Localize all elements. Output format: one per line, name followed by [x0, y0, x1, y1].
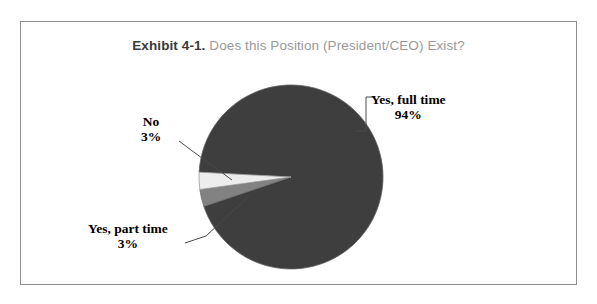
label-yes-full-time-percent: 94%	[371, 107, 446, 122]
label-no-percent: 3%	[122, 129, 180, 144]
label-yes-part-time-percent: 3%	[88, 236, 168, 251]
label-no-name: No	[143, 114, 160, 129]
chart-figure: Exhibit 4-1. Does this Position (Preside…	[0, 0, 597, 304]
label-yes-full-time-name: Yes, full time	[371, 92, 446, 107]
pie-chart	[0, 0, 597, 304]
label-yes-full-time: Yes, full time 94%	[371, 92, 446, 122]
label-yes-part-time: Yes, part time 3%	[88, 221, 168, 251]
label-yes-part-time-name: Yes, part time	[88, 221, 168, 236]
label-no: No 3%	[122, 114, 180, 144]
